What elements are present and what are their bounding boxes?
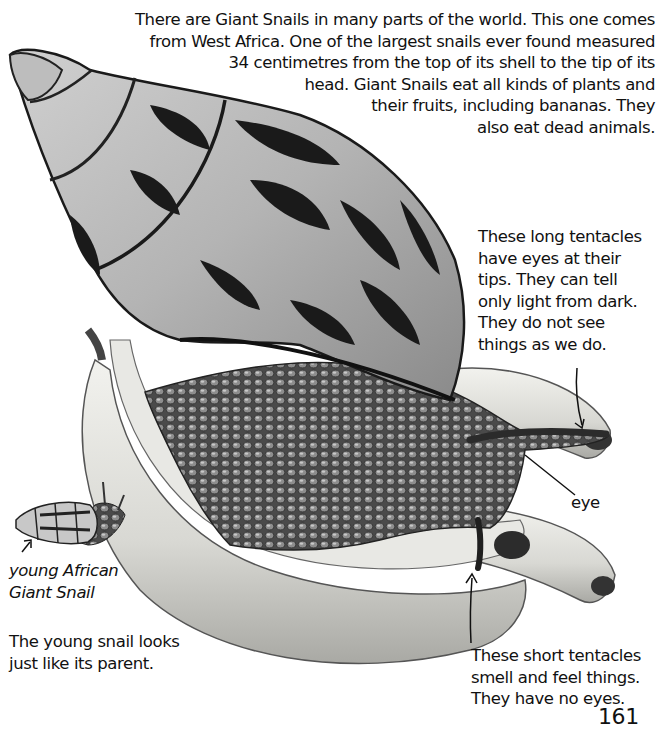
young-snail-note: The young snail looks just like its pare… bbox=[9, 631, 180, 674]
intro-line: from West Africa. One of the largest sna… bbox=[95, 31, 655, 53]
long-tentacles-note: These long tentacles have eyes at their … bbox=[478, 226, 667, 355]
eye-label: eye bbox=[571, 492, 600, 514]
caption-line: young African bbox=[9, 560, 118, 582]
intro-paragraph: There are Giant Snails in many parts of … bbox=[95, 9, 655, 138]
intro-line: also eat dead animals. bbox=[95, 117, 655, 139]
book-page: There are Giant Snails in many parts of … bbox=[0, 0, 667, 754]
note-line: things as we do. bbox=[478, 334, 667, 356]
note-line: These long tentacles bbox=[478, 226, 667, 248]
note-line: have eyes at their bbox=[478, 248, 667, 270]
page-number: 161 bbox=[598, 706, 639, 728]
note-line: just like its parent. bbox=[9, 653, 180, 675]
intro-line: their fruits, including bananas. They bbox=[95, 95, 655, 117]
note-line: The young snail looks bbox=[9, 631, 180, 653]
note-line: smell and feel things. bbox=[471, 667, 641, 689]
intro-line: 34 centimetres from the top of its shell… bbox=[95, 52, 655, 74]
caption-line: Giant Snail bbox=[9, 582, 118, 604]
intro-line: head. Giant Snails eat all kinds of plan… bbox=[95, 74, 655, 96]
note-line: tips. They can tell bbox=[478, 269, 667, 291]
short-tentacles-note: These short tentacles smell and feel thi… bbox=[471, 645, 641, 710]
note-line: They do not see bbox=[478, 312, 667, 334]
note-line: only light from dark. bbox=[478, 291, 667, 313]
note-line: These short tentacles bbox=[471, 645, 641, 667]
young-snail-caption: young African Giant Snail bbox=[9, 560, 118, 603]
intro-line: There are Giant Snails in many parts of … bbox=[95, 9, 655, 31]
